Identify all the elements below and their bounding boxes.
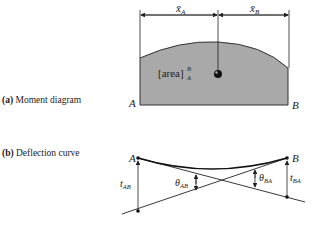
- point-b-label-b: B: [292, 152, 299, 164]
- elastic-curve: [138, 158, 287, 169]
- area-sub: A: [186, 74, 191, 81]
- moment-area-diagram: x̄A x̄B [area] B A A B (a) Moment diagra…: [0, 0, 311, 230]
- caption-b: (b) Deflection curve: [2, 148, 80, 159]
- theta-ba-label: θBA: [259, 172, 272, 184]
- point-a-label: A: [128, 97, 136, 109]
- t-ba-label: tBA: [290, 172, 301, 184]
- area-sup: B: [187, 65, 191, 72]
- moment-diagram: x̄A x̄B [area] B A A B (a) Moment diagra…: [2, 2, 299, 111]
- tangent-at-b: [122, 158, 287, 214]
- deflection-diagram: (b) Deflection curve A B tAB tBA θAB θBA: [2, 148, 305, 214]
- caption-a: (a) Moment diagram: [2, 95, 82, 106]
- point-b-label: B: [292, 99, 299, 111]
- centroid-marker: [214, 70, 222, 78]
- xbar-a-label: x̄A: [175, 2, 186, 16]
- point-a-label-b: A: [128, 152, 136, 164]
- area-label: [area]: [158, 67, 184, 79]
- t-ab-label: tAB: [120, 178, 131, 190]
- xbar-b-label: x̄B: [249, 2, 260, 16]
- theta-ab-label: θAB: [175, 177, 188, 189]
